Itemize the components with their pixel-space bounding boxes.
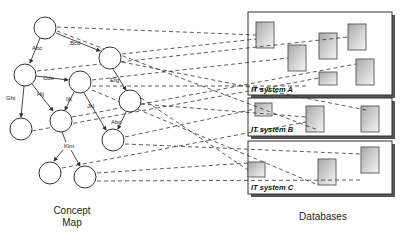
concept-node <box>102 129 124 151</box>
concept-node <box>39 162 61 184</box>
db-table-c3 <box>361 147 379 173</box>
edge-c-g <box>21 86 24 117</box>
edge-label-a-b: Bcd <box>70 40 80 46</box>
concept-node <box>34 17 56 39</box>
db-table-b2 <box>306 106 324 132</box>
edge-label-klm: Klm <box>64 143 74 149</box>
db-table-a1 <box>256 22 274 48</box>
concept-node <box>14 64 36 86</box>
concept-map-caption-line2: Map <box>62 217 82 228</box>
concept-node <box>74 166 96 188</box>
edge-klm-j <box>71 150 80 166</box>
concept-node <box>10 118 32 140</box>
edge-label-b-e: Efg <box>110 77 119 83</box>
edge-label-a-c: Abc <box>32 45 42 51</box>
edge-klm-i <box>54 150 63 161</box>
edge-label-c-f: Hij <box>37 91 44 97</box>
it-system-b-label: IT system B <box>251 125 294 134</box>
concept-map-caption-line1: Concept <box>53 205 90 216</box>
edge-c-f <box>32 84 53 111</box>
edge-label-d-h: Jkl <box>87 103 94 109</box>
db-table-a4 <box>348 24 366 50</box>
databases-caption: Databases <box>299 211 347 222</box>
mapping-link <box>122 39 256 54</box>
edge-label-c-g: Ghi <box>6 95 15 101</box>
concept-node <box>99 47 121 69</box>
mapping-link <box>125 109 255 137</box>
concept-node <box>69 71 91 93</box>
mapping-link <box>57 27 256 35</box>
edge-label-e-h: Abc <box>111 119 121 125</box>
edge-label-c-d: Cde <box>43 75 55 81</box>
db-table-a6 <box>356 59 374 85</box>
edge-label-d-f: Ijk <box>66 96 73 102</box>
db-table-c2 <box>318 159 336 185</box>
concept-node <box>50 110 72 132</box>
db-table-a3 <box>319 33 337 59</box>
db-table-c1 <box>248 162 265 177</box>
it-system-a-label: IT system A <box>251 85 293 94</box>
db-table-a5 <box>319 72 337 85</box>
db-table-a2 <box>288 45 306 71</box>
it-system-c-label: IT system C <box>251 183 294 192</box>
concept-map-to-database-diagram: Abc Bcd Cde Efg Ghi Hij Ijk Jkl Abc Klm … <box>0 0 405 234</box>
mapping-link <box>97 163 248 173</box>
concept-node <box>119 90 141 112</box>
mapping-link <box>141 98 248 170</box>
edge-f-klm <box>62 132 66 142</box>
